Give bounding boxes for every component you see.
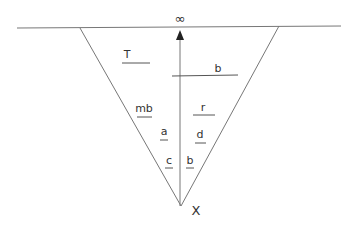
label-r: r (201, 101, 206, 114)
label-mb: mb (135, 102, 153, 115)
right-side-line (181, 26, 279, 206)
label-c: c (166, 154, 172, 167)
label-T: T (123, 48, 131, 61)
vertex-label-X: X (192, 203, 201, 218)
line-b-top (172, 75, 238, 76)
label-a: a (161, 125, 168, 138)
horizon-line (17, 26, 341, 28)
label-b-top: b (215, 62, 222, 75)
arrowhead-icon (176, 30, 184, 40)
label-d: d (197, 128, 204, 141)
triangle-diagram: ∞ T b mb r a d c b X (0, 0, 354, 225)
infinity-label: ∞ (175, 11, 186, 26)
label-b-bottom: b (187, 154, 194, 167)
left-side-line (80, 28, 181, 206)
